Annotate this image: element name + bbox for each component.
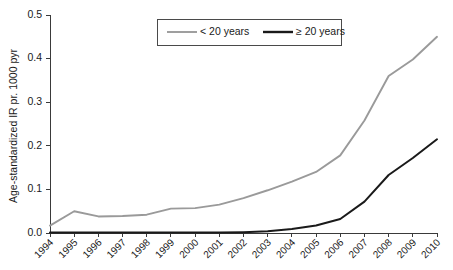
y-tick-label: 0.5 xyxy=(27,8,42,20)
legend-label-under20: < 20 years xyxy=(200,25,249,37)
x-tick-label: 1995 xyxy=(56,236,80,260)
x-tick-label: 2004 xyxy=(274,236,298,260)
line-chart: Age-standardized IR pr. 1000 pyr 0.00.10… xyxy=(0,0,453,270)
x-tick-label: 1997 xyxy=(104,236,128,260)
x-tick-label: 2007 xyxy=(346,236,370,260)
x-tick-label: 2000 xyxy=(177,236,201,260)
chart-figure: Age-standardized IR pr. 1000 pyr 0.00.10… xyxy=(0,0,453,270)
y-axis-title: Age-standardized IR pr. 1000 pyr xyxy=(7,48,19,203)
y-axis-title-label: Age-standardized IR pr. 1000 pyr xyxy=(7,48,19,203)
x-tick-label: 1994 xyxy=(32,236,56,260)
x-tick-label: 1996 xyxy=(80,236,104,260)
series-line-under20 xyxy=(50,37,437,226)
series-line-over20 xyxy=(50,139,437,232)
x-tick-label: 2009 xyxy=(395,236,419,260)
y-axis-ticks: 0.00.10.20.30.40.5 xyxy=(27,8,50,238)
y-tick-label: 0.3 xyxy=(27,95,42,107)
y-tick-label: 0.0 xyxy=(27,226,42,238)
x-tick-label: 2006 xyxy=(322,236,346,260)
y-tick-label: 0.1 xyxy=(27,182,42,194)
y-tick-label: 0.2 xyxy=(27,139,42,151)
legend-label-over20: ≥ 20 years xyxy=(296,25,345,37)
x-tick-label: 2008 xyxy=(371,236,395,260)
x-tick-label: 2001 xyxy=(201,236,225,260)
x-tick-label: 1998 xyxy=(129,236,153,260)
x-tick-label: 2003 xyxy=(250,236,274,260)
data-series-group xyxy=(50,37,437,233)
x-tick-label: 1999 xyxy=(153,236,177,260)
x-tick-label: 2002 xyxy=(225,236,249,260)
x-axis-ticks: 1994199519961997199819992000200120022003… xyxy=(32,233,443,260)
chart-legend: < 20 years ≥ 20 years xyxy=(157,19,345,45)
x-tick-label: 2010 xyxy=(419,236,443,260)
y-tick-label: 0.4 xyxy=(27,51,42,63)
x-tick-label: 2005 xyxy=(298,236,322,260)
